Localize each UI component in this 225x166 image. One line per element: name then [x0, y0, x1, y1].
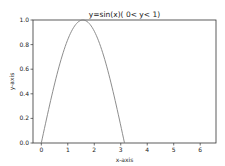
- axes-frame: [33, 20, 216, 143]
- x-tick-label: 3: [119, 146, 123, 153]
- x-tick-label: 1: [66, 146, 70, 153]
- y-axis-label: y-axis: [8, 73, 16, 91]
- x-tick-label: 4: [145, 146, 149, 153]
- sine-curve-line: [41, 20, 124, 143]
- y-tick-label: 0.2: [19, 114, 29, 121]
- x-axis-label: x-axis: [116, 156, 134, 163]
- y-tick-label: 0.8: [19, 41, 29, 48]
- chart-figure: 0123456 0.00.20.40.60.81.0 y=sin(x)( 0< …: [0, 0, 225, 166]
- chart-canvas: 0123456 0.00.20.40.60.81.0 y=sin(x)( 0< …: [0, 0, 225, 166]
- chart-title: y=sin(x)( 0< y< 1): [89, 10, 160, 19]
- x-tick-label: 6: [198, 146, 202, 153]
- y-axis-ticks: 0.00.20.40.60.81.0: [19, 16, 33, 146]
- x-axis-ticks: 0123456: [39, 143, 202, 153]
- y-tick-label: 0.0: [19, 139, 29, 146]
- y-tick-label: 0.6: [19, 65, 29, 72]
- x-tick-label: 0: [39, 146, 43, 153]
- y-tick-label: 0.4: [19, 90, 29, 97]
- x-tick-label: 2: [92, 146, 96, 153]
- y-tick-label: 1.0: [19, 16, 29, 23]
- x-tick-label: 5: [172, 146, 176, 153]
